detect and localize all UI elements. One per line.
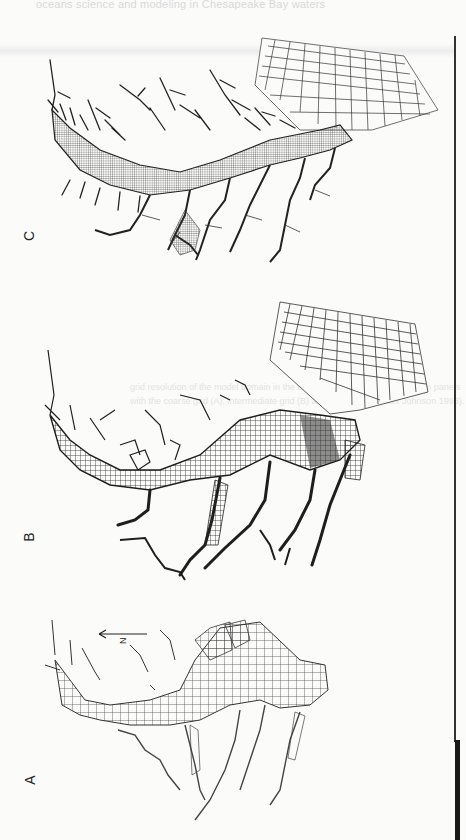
north-arrow	[99, 630, 147, 638]
panel-a-grid: N	[45, 620, 328, 820]
panel-c-grid	[48, 38, 438, 262]
panel-c-offshore-grid	[255, 38, 438, 130]
panel-label-c: C	[21, 231, 37, 241]
panel-b-grid	[45, 302, 428, 580]
panel-label-b: B	[21, 532, 37, 541]
panel-label-a: A	[22, 775, 38, 784]
panel-b-offshore-grid	[270, 302, 428, 414]
north-arrow-label: N	[118, 638, 128, 645]
